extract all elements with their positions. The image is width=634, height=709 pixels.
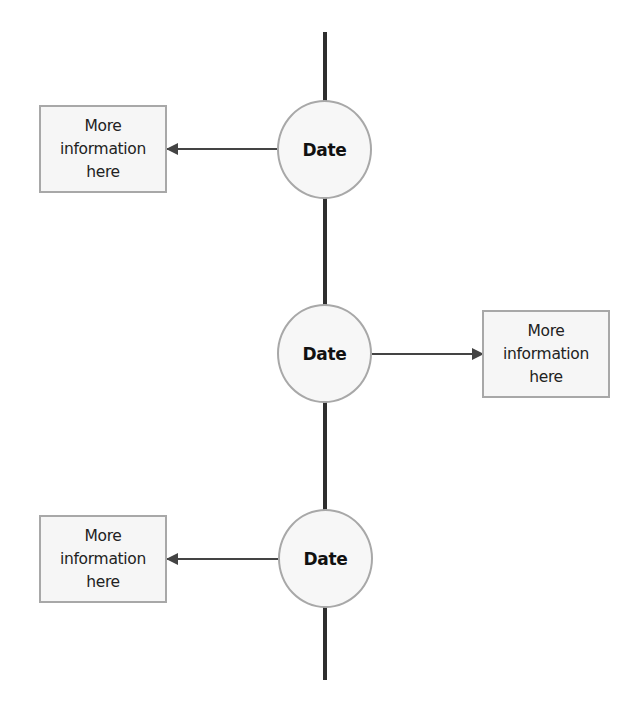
arrow-right-icon (372, 353, 483, 355)
timeline-line-segment (323, 607, 327, 680)
info-box: More information here (39, 105, 167, 193)
info-text: More information here (60, 525, 146, 594)
info-box: More information here (39, 515, 167, 603)
arrow-left-icon (167, 558, 278, 560)
info-text: More information here (60, 115, 146, 184)
timeline-line-segment (323, 402, 327, 511)
date-label: Date (302, 140, 346, 160)
date-label: Date (303, 549, 347, 569)
info-box: More information here (482, 310, 610, 398)
timeline-diagram: Date More information here Date More inf… (0, 0, 634, 709)
timeline-line-segment (323, 32, 327, 102)
timeline-date-node: Date (277, 304, 372, 403)
timeline-date-node: Date (277, 100, 372, 199)
timeline-line-segment (323, 198, 327, 306)
info-text: More information here (503, 320, 589, 389)
arrow-left-icon (167, 148, 277, 150)
timeline-date-node: Date (278, 509, 373, 608)
date-label: Date (302, 344, 346, 364)
